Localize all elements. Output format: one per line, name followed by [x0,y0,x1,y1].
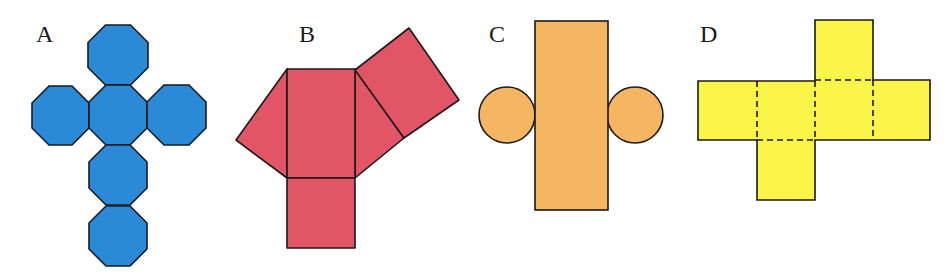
right-circle [607,87,663,143]
octagon-bottom [89,206,147,266]
octagon-top [88,25,148,85]
center-rectangle [287,69,355,178]
figure-d: D [698,20,930,200]
left-circle [479,87,535,143]
figure-c-label: C [489,21,505,47]
figure-c: C [479,21,663,210]
left-triangle [236,69,287,178]
cylinder-net [479,21,663,210]
figure-d-label: D [700,21,717,47]
bottom-square [287,178,355,248]
octagon-lower [89,145,147,205]
figure-a-label: A [36,21,54,47]
nets-diagram: A B C D [0,0,951,278]
octagon-right [147,85,206,145]
cube-net [698,20,930,200]
cube-net-outline [698,20,930,200]
lateral-rectangle [535,21,608,210]
octagon-center [89,85,147,145]
triangular-prism-net [236,28,459,248]
octagon-net [32,25,206,266]
figure-a: A [32,21,206,266]
figure-b-label: B [299,21,315,47]
figure-b: B [236,21,459,248]
octagon-left [32,86,89,145]
